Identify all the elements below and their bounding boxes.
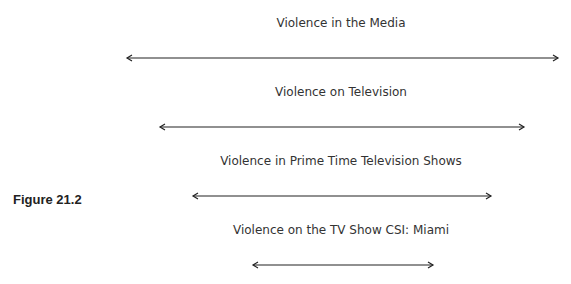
double-arrow-icon [160,124,524,130]
double-arrow-icon [127,55,558,61]
double-arrow-icon [193,193,491,199]
double-arrow-icon [253,262,433,268]
arrows-diagram [0,0,571,284]
